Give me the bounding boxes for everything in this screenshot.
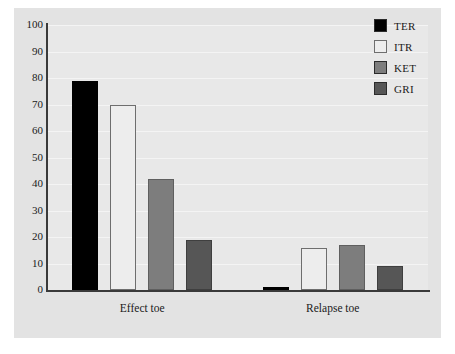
plot-area [47,25,428,290]
bar-itr-effect-toe [110,105,136,291]
bar-ket-relapse-toe [339,245,365,290]
y-axis-tick-label: 40 [3,178,43,189]
bar-gri-effect-toe [186,240,212,290]
gridline [47,237,428,238]
bar-gri-relapse-toe [377,266,403,290]
y-axis-tick-label: 50 [3,152,43,163]
legend-item: ITR [374,38,436,55]
legend-label-ket: KET [394,62,416,74]
gridline [47,52,428,53]
bar-ket-effect-toe [148,179,174,290]
x-axis-tick-label: Relapse toe [306,302,359,314]
y-axis-tick-label: 100 [3,19,43,30]
bar-ter-effect-toe [72,81,98,290]
legend-swatch-gri [374,82,387,95]
legend-label-gri: GRI [394,83,414,95]
y-axis-line [46,23,48,292]
legend-item: GRI [374,80,436,97]
y-axis-tick-label: 0 [3,284,43,295]
x-axis-line [46,290,430,292]
y-axis-tick-label: 90 [3,46,43,57]
y-axis-tick-label: 60 [3,125,43,136]
legend-label-itr: ITR [394,41,413,53]
legend-item: KET [374,59,436,76]
y-axis-tick-label: 20 [3,231,43,242]
gridline [47,211,428,212]
legend-swatch-itr [374,40,387,53]
gridline [47,158,428,159]
y-axis-tick-label: 70 [3,99,43,110]
gridline [47,78,428,79]
gridline [47,105,428,106]
y-axis-tick-label: 30 [3,205,43,216]
gridline [47,184,428,185]
chart-legend: TERITRKETGRI [374,17,436,101]
y-axis-tick-labels: 0102030405060708090100 [0,0,43,354]
legend-swatch-ket [374,61,387,74]
gridline [47,264,428,265]
gridline [47,25,428,26]
y-axis-tick-label: 10 [3,258,43,269]
gridline [47,131,428,132]
legend-swatch-ter [374,19,387,32]
chart-figure: 0102030405060708090100 TERITRKETGRI Effe… [0,0,455,354]
x-axis-tick-label: Effect toe [120,302,165,314]
legend-label-ter: TER [394,20,416,32]
y-axis-tick-label: 80 [3,72,43,83]
legend-item: TER [374,17,436,34]
bar-itr-relapse-toe [301,248,327,290]
